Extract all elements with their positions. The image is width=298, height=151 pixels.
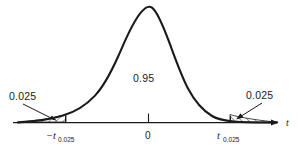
right-critical-base: t: [217, 130, 221, 141]
left-tail-probability-label: 0.025: [9, 90, 36, 102]
central-probability-label: 0.95: [133, 72, 154, 84]
right-critical-value-label: t 0.025: [217, 130, 240, 143]
left-critical-base: −t: [46, 130, 57, 141]
axis-variable-label: t: [286, 117, 289, 128]
t-distribution-figure: 0.025 0.025 0.95 0 −t 0.025 t 0.025 t: [0, 0, 298, 151]
origin-axis-label: 0: [145, 130, 151, 141]
distribution-plot: 0.025 0.025 0.95 0 −t 0.025 t 0.025 t: [0, 0, 298, 151]
density-curve: [18, 7, 277, 123]
left-annotation-arrow: [23, 104, 57, 121]
right-annotation-arrow: [236, 103, 262, 120]
right-critical-subscript: 0.025: [223, 136, 240, 143]
left-critical-subscript: 0.025: [58, 136, 75, 143]
axis-arrowhead: [271, 120, 279, 126]
left-critical-value-label: −t 0.025: [46, 130, 75, 143]
right-tail-probability-label: 0.025: [246, 89, 273, 101]
